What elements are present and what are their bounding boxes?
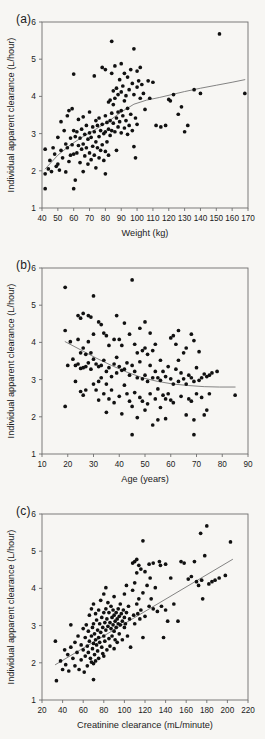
data-point [127, 124, 131, 128]
data-point [78, 161, 82, 165]
data-point [70, 107, 74, 111]
x-tick-label: 220 [241, 706, 255, 715]
data-point [94, 638, 98, 642]
data-point [63, 648, 67, 652]
data-point [77, 144, 81, 148]
y-axis-title: Individual apparent clearance (L/hour) [6, 530, 16, 685]
data-point [159, 358, 163, 362]
data-point [104, 68, 108, 72]
data-point [138, 326, 142, 330]
plot-frame [42, 514, 248, 700]
data-point [190, 376, 194, 380]
x-tick-label: 100 [130, 214, 144, 223]
data-point [133, 342, 137, 346]
data-point [94, 388, 98, 392]
data-point [83, 654, 87, 658]
data-point [66, 653, 70, 657]
data-point [85, 664, 89, 668]
data-point [97, 116, 101, 120]
data-point [93, 653, 97, 657]
data-point [130, 405, 134, 409]
data-point [78, 136, 82, 140]
data-point [192, 418, 196, 422]
data-point [112, 629, 116, 633]
data-point [77, 668, 81, 672]
data-point [215, 370, 219, 374]
data-point [123, 616, 127, 620]
data-point [143, 320, 147, 324]
data-point [53, 152, 57, 156]
data-point [90, 634, 94, 638]
data-point [135, 85, 139, 89]
data-point [143, 108, 147, 112]
data-point [136, 612, 140, 616]
data-point [130, 278, 134, 282]
data-point [96, 649, 100, 653]
data-point [132, 93, 136, 97]
data-point [99, 323, 103, 327]
data-point [205, 524, 209, 528]
data-point [104, 150, 108, 154]
data-point [79, 658, 83, 662]
y-tick-label: 2 [31, 658, 36, 668]
y-tick-label: 1 [31, 449, 36, 459]
data-point [137, 597, 141, 601]
data-point [100, 122, 104, 126]
data-point [84, 352, 88, 356]
data-point [190, 332, 194, 336]
data-point [123, 626, 127, 630]
data-point [100, 143, 104, 147]
data-point [97, 656, 101, 660]
plot-frame [42, 22, 248, 208]
data-point [119, 131, 123, 135]
data-point [105, 370, 109, 374]
data-point [123, 592, 127, 596]
data-point [199, 92, 203, 96]
data-point [104, 628, 108, 632]
data-point [97, 398, 101, 402]
data-point [87, 651, 91, 655]
data-point [153, 586, 157, 590]
data-point [143, 570, 147, 574]
data-point [111, 608, 115, 612]
data-point [140, 83, 144, 87]
data-point [116, 125, 120, 129]
x-tick-label: 40 [115, 460, 125, 469]
data-point [123, 126, 127, 130]
data-point [128, 332, 132, 336]
data-point [107, 127, 111, 131]
data-point [118, 623, 122, 627]
data-point [81, 393, 85, 397]
data-point [184, 382, 188, 386]
data-point [184, 346, 188, 350]
data-point [135, 69, 139, 73]
data-point [104, 607, 108, 611]
data-point [80, 127, 84, 131]
data-point [69, 623, 73, 627]
data-point [127, 88, 131, 92]
data-point [95, 643, 99, 647]
data-point [68, 340, 72, 344]
data-point [125, 584, 129, 588]
data-point [94, 119, 98, 123]
data-point [218, 32, 222, 36]
data-point [203, 554, 207, 558]
data-point [90, 607, 94, 611]
data-point [79, 643, 83, 647]
data-point [177, 380, 181, 384]
data-point [92, 622, 96, 626]
data-point [104, 130, 108, 134]
data-point [151, 376, 155, 380]
data-point [123, 321, 127, 325]
data-point [99, 129, 103, 133]
data-point [128, 373, 132, 377]
data-point [142, 92, 146, 96]
data-point [111, 89, 115, 93]
data-point [115, 355, 119, 359]
data-point [159, 563, 163, 567]
data-point [59, 120, 63, 124]
data-point [176, 112, 180, 116]
data-point [229, 540, 233, 544]
x-axis-title: Weight (kg) [122, 228, 169, 238]
data-point [135, 558, 139, 562]
